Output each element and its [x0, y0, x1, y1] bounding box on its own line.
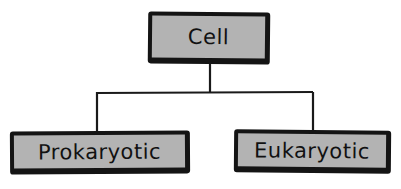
node-prokaryotic: Prokaryotic [10, 130, 190, 174]
node-prokaryotic-label: Prokaryotic [38, 139, 161, 164]
node-eukaryotic-label: Eukaryotic [254, 138, 370, 163]
node-eukaryotic: Eukaryotic [234, 129, 391, 173]
connector-horizontal-bar [97, 92, 313, 93]
node-cell: Cell [148, 11, 271, 64]
node-cell-label: Cell [188, 25, 230, 49]
